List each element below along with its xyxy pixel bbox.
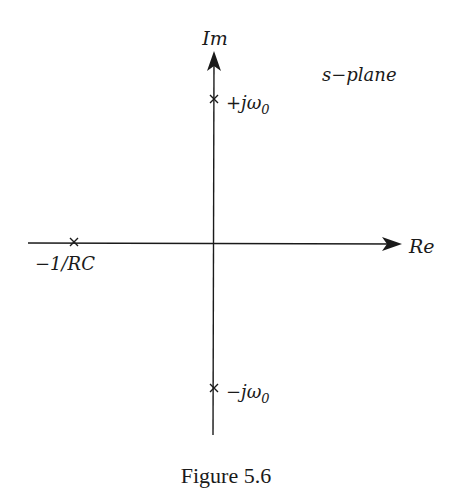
pole-cross-icon <box>70 238 78 246</box>
real-axis-label: Re <box>408 235 435 257</box>
pole-label: −1/RC <box>35 253 95 274</box>
pole-positive-imag: +jω0 <box>210 92 270 117</box>
pole-negative-imag: −jω0 <box>210 381 270 406</box>
pole-label: +jω0 <box>226 92 270 117</box>
figure-caption: Figure 5.6 <box>181 463 271 488</box>
pole-label: −jω0 <box>226 381 270 406</box>
pole-cross-icon <box>210 384 218 392</box>
s-plane-pole-diagram: Im Re s−plane +jω0 −jω0 −1/RC Figure 5.6 <box>0 0 460 499</box>
plane-label: s−plane <box>322 64 397 85</box>
imaginary-axis-label: Im <box>201 27 228 49</box>
real-axis <box>28 237 402 251</box>
